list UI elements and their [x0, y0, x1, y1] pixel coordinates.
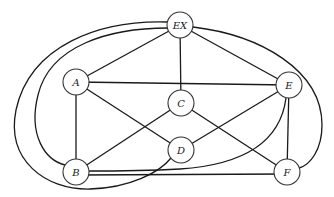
edge-ex-b — [35, 28, 168, 165]
edge-ex-d — [14, 22, 171, 189]
edge-a-d — [76, 82, 181, 150]
node-label-f: F — [283, 167, 292, 178]
graph-diagram: EX A C E D B F — [0, 0, 334, 197]
node-b: B — [63, 159, 89, 185]
edge-ex-a — [76, 25, 180, 82]
edge-a-e — [76, 82, 289, 85]
node-c: C — [168, 90, 194, 116]
node-d: D — [168, 137, 194, 163]
edge-c-b — [76, 103, 181, 172]
node-label-b: B — [71, 167, 79, 178]
edge-b-f — [76, 174, 287, 175]
node-label-a: A — [71, 77, 79, 88]
node-ex: EX — [167, 12, 193, 38]
node-label-e: E — [284, 80, 293, 91]
node-e: E — [276, 72, 302, 98]
edge-ex-e — [180, 25, 289, 85]
node-label-ex: EX — [172, 20, 188, 31]
node-label-c: C — [177, 98, 185, 109]
node-f: F — [274, 159, 300, 185]
node-a: A — [63, 69, 89, 95]
edge-e-d — [181, 85, 289, 150]
node-label-d: D — [176, 145, 185, 156]
edge-c-f — [181, 103, 287, 172]
